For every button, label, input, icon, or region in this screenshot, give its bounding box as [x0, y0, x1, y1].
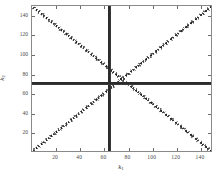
y-tick-mark — [32, 35, 35, 36]
y-tick-mark — [208, 75, 211, 76]
y-tick-mark — [32, 94, 35, 95]
x-tick-label: 80 — [125, 154, 131, 160]
x-tick-mark — [56, 6, 57, 9]
y-tick-mark — [208, 35, 211, 36]
x-tick-mark — [104, 148, 105, 151]
y-tick-mark — [32, 114, 35, 115]
x-tick-label: 140 — [195, 154, 204, 160]
x-tick-label: 20 — [52, 154, 58, 160]
x-tick-mark — [104, 6, 105, 9]
x-tick-mark — [153, 148, 154, 151]
x-axis-title-subscript: 1 — [121, 166, 124, 171]
x-tick-label: 100 — [147, 154, 156, 160]
x-tick-mark — [80, 6, 81, 9]
x-tick-label: 120 — [171, 154, 180, 160]
plot-area — [31, 5, 212, 152]
x-tick-mark — [56, 148, 57, 151]
x-axis-title: k1 — [118, 163, 124, 171]
y-axis-title-subscript: 2 — [1, 75, 6, 78]
y-tick-mark — [208, 94, 211, 95]
y-tick-mark — [208, 133, 211, 134]
y-tick-mark — [208, 16, 211, 17]
x-tick-mark — [201, 6, 202, 9]
y-tick-mark — [208, 114, 211, 115]
x-tick-mark — [177, 148, 178, 151]
x-tick-mark — [129, 6, 130, 9]
x-tick-mark — [153, 6, 154, 9]
x-tick-mark — [80, 148, 81, 151]
series-vertical-ridge — [108, 6, 110, 151]
x-tick-mark — [177, 6, 178, 9]
x-tick-label: 40 — [76, 154, 82, 160]
figure: k1 k2 2040608010012014020406080100120140 — [0, 0, 222, 177]
y-tick-mark — [32, 16, 35, 17]
x-tick-mark — [201, 148, 202, 151]
y-tick-mark — [32, 133, 35, 134]
y-tick-mark — [32, 55, 35, 56]
y-axis-title-base: k — [0, 78, 6, 81]
series-horizontal-ridge — [32, 82, 211, 84]
x-tick-mark — [129, 148, 130, 151]
y-tick-mark — [32, 75, 35, 76]
y-axis-title: k2 — [0, 75, 6, 81]
x-tick-label: 60 — [100, 154, 106, 160]
y-tick-mark — [208, 55, 211, 56]
